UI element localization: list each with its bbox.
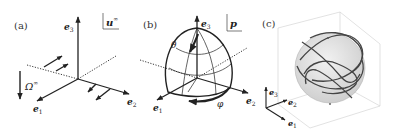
axis-e2 (78, 79, 129, 94)
pole-marker (327, 37, 329, 39)
pole-marker (329, 103, 331, 105)
axis-e2 (197, 78, 248, 93)
axis-e1 (37, 79, 78, 101)
dotted-axis-right (197, 48, 247, 78)
axis-e1 (266, 108, 285, 120)
figure: (a) e3 e1 e2 u∞ Ω∞ (b) (0, 0, 396, 140)
flow-label: u∞ (106, 15, 118, 28)
axis-e3-label: e3 (201, 19, 211, 30)
panel-b-label: (b) (143, 19, 157, 30)
octant-outline (166, 28, 233, 96)
axis-e2-label: e2 (127, 97, 137, 108)
axis-e2 (266, 100, 287, 108)
phi-label: φ (217, 99, 224, 109)
dotted-axis-left (27, 65, 78, 79)
dotted-axis-left (140, 60, 197, 78)
flow-arrow (56, 64, 68, 71)
flow-arrow (44, 56, 62, 67)
flow-arrow (88, 84, 96, 92)
axis-e1-label: e1 (153, 103, 163, 114)
theta-label: θ (171, 40, 177, 50)
axis-e1-label: e1 (33, 104, 43, 115)
parallel (169, 64, 231, 75)
panel-a-label: (a) (14, 20, 28, 31)
panel-b: (b) e3 e1 e2 θ φ p (140, 14, 256, 114)
parallel (176, 44, 224, 54)
panel-c-label: (c) (262, 18, 276, 29)
vector-label: p (230, 18, 237, 29)
panel-a: (a) e3 e1 e2 u∞ Ω∞ (14, 13, 137, 115)
axis-e2-label: e2 (288, 97, 297, 108)
rotation-label: Ω∞ (24, 79, 38, 92)
flow-arrow (96, 89, 110, 100)
axis-e3-label: e3 (269, 87, 278, 98)
panel-c: (c) e3 e2 (262, 12, 380, 129)
axis-e1-label: e1 (288, 118, 297, 129)
meridian (197, 28, 216, 95)
dotted-axis-right (78, 56, 116, 79)
axis-e3-label: e3 (64, 22, 74, 33)
axis-e2-label: e2 (246, 96, 256, 107)
